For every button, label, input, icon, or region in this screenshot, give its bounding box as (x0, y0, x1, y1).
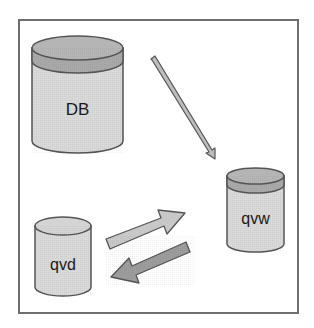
node-qvd: qvd (35, 217, 91, 296)
cylinder-top-db (32, 36, 123, 60)
node-db: DB (32, 36, 123, 153)
node-label-qvw: qvw (241, 210, 270, 227)
node-label-db: DB (66, 100, 90, 119)
node-label-qvd: qvd (50, 256, 76, 273)
cylinder-top-qvd (35, 217, 91, 235)
cylinder-top-qvw (227, 168, 284, 184)
node-qvw: qvw (227, 168, 284, 252)
diagram-canvas: DB qvw qvd (0, 0, 314, 328)
